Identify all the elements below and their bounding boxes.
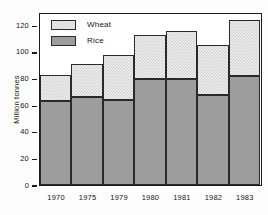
x-axis-label: 1975 bbox=[72, 193, 103, 202]
bar-group[interactable] bbox=[197, 15, 228, 185]
bar-segment-rice[interactable] bbox=[40, 101, 71, 185]
bar-group[interactable] bbox=[229, 15, 260, 185]
x-axis-label: 1980 bbox=[135, 193, 166, 202]
bar-segment-wheat[interactable] bbox=[71, 64, 102, 97]
y-tick-mark bbox=[32, 185, 37, 186]
y-tick-mark bbox=[32, 106, 37, 107]
x-axis-label: 1981 bbox=[166, 193, 197, 202]
bar-segment-wheat[interactable] bbox=[197, 45, 228, 94]
bar-segment-rice[interactable] bbox=[166, 79, 197, 185]
x-axis-label: 1970 bbox=[40, 193, 71, 202]
y-tick-label: 80 bbox=[0, 74, 29, 83]
legend-item-rice: Rice bbox=[51, 34, 147, 47]
y-tick-label: 120 bbox=[0, 21, 29, 30]
bar-segment-wheat[interactable] bbox=[229, 20, 260, 76]
y-tick-mark bbox=[32, 132, 37, 133]
y-tick-mark bbox=[32, 52, 37, 53]
stacked-bar-chart: Million tonnes 020406080100120 197019751… bbox=[0, 0, 268, 215]
wheat-swatch-icon bbox=[51, 20, 76, 30]
bar-segment-rice[interactable] bbox=[134, 79, 165, 185]
bar-segment-wheat[interactable] bbox=[166, 31, 197, 79]
y-tick-mark bbox=[32, 79, 37, 80]
bar-group[interactable] bbox=[166, 15, 197, 185]
x-axis-label: 1982 bbox=[198, 193, 229, 202]
y-tick-mark bbox=[32, 159, 37, 160]
y-tick-label: 0 bbox=[0, 181, 29, 190]
y-tick-label: 60 bbox=[0, 101, 29, 110]
rice-swatch-icon bbox=[51, 36, 76, 46]
y-tick-mark bbox=[32, 26, 37, 27]
bar-segment-rice[interactable] bbox=[71, 97, 102, 185]
x-axis-label: 1983 bbox=[229, 193, 260, 202]
chart-legend: Wheat Rice bbox=[51, 18, 147, 50]
y-tick-label: 100 bbox=[0, 47, 29, 56]
bar-segment-rice[interactable] bbox=[197, 95, 228, 185]
legend-label-wheat: Wheat bbox=[87, 20, 111, 29]
legend-label-rice: Rice bbox=[87, 36, 104, 45]
legend-item-wheat: Wheat bbox=[51, 18, 147, 31]
x-axis-label: 1979 bbox=[103, 193, 134, 202]
bar-segment-rice[interactable] bbox=[103, 100, 134, 185]
bar-segment-rice[interactable] bbox=[229, 76, 260, 185]
y-tick-label: 20 bbox=[0, 154, 29, 163]
bar-segment-wheat[interactable] bbox=[103, 55, 134, 100]
y-tick-label: 40 bbox=[0, 127, 29, 136]
bar-segment-wheat[interactable] bbox=[40, 75, 71, 102]
